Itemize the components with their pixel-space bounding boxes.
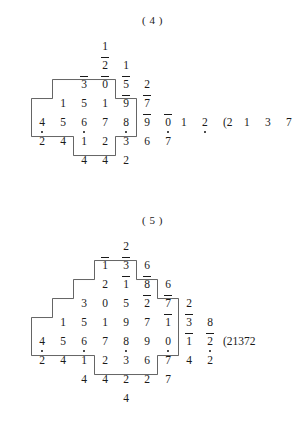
digit-cell: 4 <box>33 116 51 129</box>
digit-glyph: 2 <box>101 278 109 291</box>
digit-cell: 5 <box>75 97 93 110</box>
digit-cell: 6 <box>138 259 156 272</box>
digit-glyph: 1 <box>101 40 109 53</box>
digit-cell: 4 <box>117 392 135 405</box>
figure-5-grid: 2136218630527215197138456789012241236742… <box>0 240 305 430</box>
digit-cell: 2 <box>201 354 219 367</box>
digit-glyph: 1 <box>122 278 130 291</box>
digit-glyph: 0 <box>101 297 109 310</box>
digit-cell: 3 <box>117 135 135 148</box>
trailing-glyph: 7 <box>285 116 293 129</box>
digit-glyph: 0 <box>164 335 172 348</box>
digit-glyph: 7 <box>164 135 172 148</box>
digit-glyph: 1 <box>122 59 130 72</box>
digit-glyph: 4 <box>80 154 88 167</box>
digit-glyph: 5 <box>59 116 67 129</box>
digit-cell: 2 <box>33 135 51 148</box>
digit-cell: 8 <box>138 278 156 291</box>
digit-glyph: 5 <box>122 78 130 91</box>
digit-cell: 4 <box>33 335 51 348</box>
digit-cell: 7 <box>159 297 177 310</box>
digit-cell: 2 <box>96 354 114 367</box>
digit-glyph: 2 <box>101 354 109 367</box>
figure-4: ( 4 )1213052151974567890241236744212(213… <box>0 14 305 230</box>
digit-cell: 6 <box>75 116 93 129</box>
digit-cell: 4 <box>96 373 114 386</box>
digit-cell: 4 <box>180 354 198 367</box>
digit-glyph: 1 <box>101 259 109 272</box>
digit-glyph: 3 <box>80 78 88 91</box>
digit-cell: 2 <box>201 335 219 348</box>
digit-glyph: 0 <box>164 116 172 129</box>
digit-glyph: 5 <box>122 297 130 310</box>
digit-glyph: 5 <box>80 97 88 110</box>
digit-glyph: 9 <box>122 97 130 110</box>
digit-glyph: 4 <box>101 373 109 386</box>
digit-glyph: 7 <box>164 297 172 310</box>
trailing-digits: (21372 <box>222 335 257 348</box>
digit-cell: 5 <box>54 335 72 348</box>
digit-cell: 2 <box>117 240 135 253</box>
digit-cell: 7 <box>138 97 156 110</box>
digit-cell: 6 <box>138 135 156 148</box>
digit-cell: 8 <box>117 116 135 129</box>
figure-5: ( 5 )21362186305272151971384567890122412… <box>0 214 305 430</box>
digit-glyph: 2 <box>206 335 214 348</box>
digit-cell: 6 <box>75 335 93 348</box>
digit-glyph: 1 <box>164 316 172 329</box>
digit-glyph: 9 <box>143 116 151 129</box>
digit-glyph: 8 <box>206 316 214 329</box>
trailing-digits: 1 <box>243 116 251 129</box>
digit-cell: 0 <box>159 335 177 348</box>
digit-cell: 2 <box>117 154 135 167</box>
trailing-digits: 1 <box>180 116 188 129</box>
digit-cell: 1 <box>75 354 93 367</box>
digit-cell: 3 <box>180 316 198 329</box>
digit-cell: 9 <box>138 116 156 129</box>
digit-glyph: 9 <box>143 335 151 348</box>
trailing-glyph: (21372 <box>222 335 257 348</box>
digit-cell: 7 <box>159 373 177 386</box>
digit-cell: 8 <box>117 335 135 348</box>
digit-glyph: 1 <box>80 135 88 148</box>
digit-glyph: 5 <box>80 316 88 329</box>
trailing-digits: (2 <box>222 116 234 129</box>
digit-cell: 9 <box>117 97 135 110</box>
trailing-glyph: 2 <box>201 116 209 129</box>
digit-glyph: 8 <box>122 335 130 348</box>
digit-glyph: 6 <box>143 354 151 367</box>
digit-glyph: 4 <box>80 373 88 386</box>
digit-cell: 3 <box>75 297 93 310</box>
digit-glyph: 2 <box>122 154 130 167</box>
digit-glyph: 6 <box>80 116 88 129</box>
digit-cell: 4 <box>54 354 72 367</box>
digit-glyph: 7 <box>101 335 109 348</box>
digit-glyph: 2 <box>122 373 130 386</box>
digit-glyph: 2 <box>143 297 151 310</box>
digit-glyph: 3 <box>185 316 193 329</box>
digit-cell: 1 <box>159 316 177 329</box>
digit-cell: 1 <box>75 135 93 148</box>
digit-glyph: 6 <box>143 259 151 272</box>
trailing-digits: 7 <box>285 116 293 129</box>
digit-cell: 7 <box>159 135 177 148</box>
digit-glyph: 4 <box>185 354 193 367</box>
digit-cell: 1 <box>54 316 72 329</box>
digit-cell: 2 <box>96 135 114 148</box>
digit-cell: 3 <box>117 259 135 272</box>
digit-cell: 9 <box>138 335 156 348</box>
digit-glyph: 2 <box>143 78 151 91</box>
digit-cell: 7 <box>96 335 114 348</box>
digit-cell: 0 <box>159 116 177 129</box>
digit-glyph: 7 <box>143 316 151 329</box>
digit-glyph: 4 <box>101 154 109 167</box>
digit-cell: 2 <box>180 297 198 310</box>
digit-glyph: 4 <box>59 354 67 367</box>
digit-cell: 4 <box>75 154 93 167</box>
digit-glyph: 4 <box>38 116 46 129</box>
digit-glyph: 4 <box>38 335 46 348</box>
digit-glyph: 3 <box>122 259 130 272</box>
digit-glyph: 2 <box>185 297 193 310</box>
digit-cell: 0 <box>96 78 114 91</box>
digit-glyph: 0 <box>101 78 109 91</box>
